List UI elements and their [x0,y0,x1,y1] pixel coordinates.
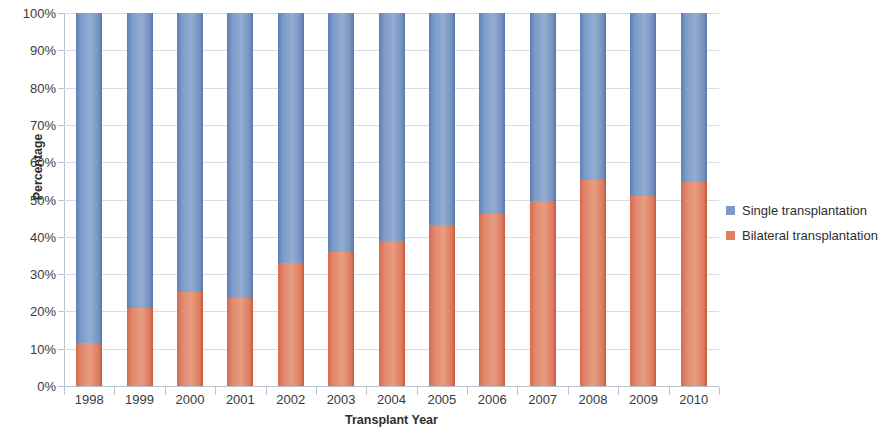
bar-group[interactable] [580,13,606,386]
bar-segment-single[interactable] [227,13,253,298]
y-axis-tick-labels: 0%10%20%30%40%50%60%70%80%90%100% [0,0,62,430]
bar-segment-bilateral[interactable] [328,252,354,386]
bar-segment-single[interactable] [530,13,556,201]
x-axis-tick-label: 2007 [515,392,571,407]
y-axis-tick-mark [58,311,64,312]
plot-area [64,13,719,386]
legend-swatch-bilateral-icon [726,231,735,240]
bar-segment-bilateral[interactable] [127,308,153,386]
x-axis-tick-label: 2008 [565,392,621,407]
bar-segment-bilateral[interactable] [429,225,455,386]
stacked-bar-chart: Percentage 0%10%20%30%40%50%60%70%80%90%… [0,0,891,430]
bar-group[interactable] [278,13,304,386]
y-axis-tick-mark [58,200,64,201]
bar-group[interactable] [379,13,405,386]
x-axis-title: Transplant Year [64,413,719,427]
y-axis-tick-label: 20% [0,304,56,319]
y-axis-tick-label: 40% [0,229,56,244]
y-axis-tick-label: 70% [0,117,56,132]
y-axis-tick-label: 100% [0,6,56,21]
bar-group[interactable] [328,13,354,386]
x-axis-tick-label: 1999 [112,392,168,407]
x-axis-tick-label: 2003 [313,392,369,407]
y-axis-tick-label: 90% [0,43,56,58]
legend-item[interactable]: Bilateral transplantation [726,223,891,248]
bar-segment-single[interactable] [479,13,505,214]
x-axis-tick-label: 2002 [263,392,319,407]
y-axis-tick-label: 30% [0,267,56,282]
bar-segment-single[interactable] [429,13,455,225]
y-axis-tick-mark [58,162,64,163]
bar-segment-bilateral[interactable] [278,263,304,386]
bar-segment-bilateral[interactable] [681,182,707,386]
bar-segment-bilateral[interactable] [630,196,656,386]
y-axis-tick-label: 10% [0,341,56,356]
x-axis-tick-label: 2010 [666,392,722,407]
y-axis-tick-mark [58,274,64,275]
y-axis-tick-mark [58,88,64,89]
y-axis-tick-mark [58,13,64,14]
bar-segment-single[interactable] [379,13,405,241]
x-axis-tick-label: 2004 [364,392,420,407]
bar-segment-bilateral[interactable] [76,343,102,386]
bar-segment-single[interactable] [630,13,656,196]
bar-group[interactable] [177,13,203,386]
legend-swatch-single-icon [726,206,735,215]
bar-segment-bilateral[interactable] [479,214,505,386]
bar-segment-bilateral[interactable] [177,292,203,386]
x-axis-tick-label: 2000 [162,392,218,407]
bar-segment-bilateral[interactable] [227,298,253,386]
y-axis-tick-mark [58,50,64,51]
x-axis-tick-labels: 1998199920002001200220032004200520062007… [64,392,719,414]
bar-group[interactable] [630,13,656,386]
bar-group[interactable] [479,13,505,386]
x-axis-tick-label: 2009 [615,392,671,407]
bar-group[interactable] [227,13,253,386]
x-axis-tick-label: 1998 [61,392,117,407]
x-axis-tick-label: 2006 [464,392,520,407]
x-axis-tick-label: 2005 [414,392,470,407]
bar-group[interactable] [681,13,707,386]
bar-segment-single[interactable] [278,13,304,263]
bar-segment-bilateral[interactable] [379,241,405,386]
bar-group[interactable] [429,13,455,386]
bar-segment-bilateral[interactable] [580,180,606,386]
legend-item-label: Bilateral transplantation [742,228,878,243]
y-axis-tick-mark [58,386,64,387]
y-axis-tick-label: 80% [0,80,56,95]
y-axis-tick-label: 60% [0,155,56,170]
bar-group[interactable] [530,13,556,386]
legend-item-label: Single transplantation [742,203,867,218]
y-axis-tick-label: 50% [0,192,56,207]
bar-group[interactable] [127,13,153,386]
legend-item[interactable]: Single transplantation [726,198,891,223]
y-axis-tick-label: 0% [0,379,56,394]
bar-segment-bilateral[interactable] [530,201,556,386]
chart-legend: Single transplantationBilateral transpla… [726,198,891,248]
bar-segment-single[interactable] [76,13,102,343]
y-axis-tick-mark [58,349,64,350]
bar-segment-single[interactable] [127,13,153,308]
y-axis-tick-mark [58,237,64,238]
x-axis-tick-label: 2001 [212,392,268,407]
bar-segment-single[interactable] [580,13,606,180]
bar-group[interactable] [76,13,102,386]
bar-segment-single[interactable] [177,13,203,292]
y-axis-tick-mark [58,125,64,126]
bar-segment-single[interactable] [681,13,707,182]
bar-segment-single[interactable] [328,13,354,252]
